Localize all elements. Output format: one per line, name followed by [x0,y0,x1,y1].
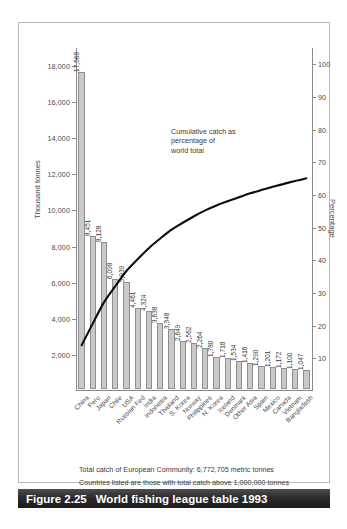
y-axis-right-line [312,48,313,391]
y-axis-right-tick [312,64,316,65]
y-axis-right-tick-label: 90 [318,93,326,102]
y-axis-right-tick-label: 80 [318,125,326,134]
y-axis-right-tick [312,97,316,98]
y-axis-left-tick-label: 12,000 [47,170,70,179]
y-axis-right-tick-label: 10 [318,354,326,363]
y-axis-right-tick [312,260,316,261]
cumulative-percentage-curve [76,48,312,391]
figure-frame: Thousand tonnes Percentage 2,0004,0006,0… [18,22,330,483]
curve-annotation-line: percentage of [171,136,236,145]
figure-caption-number: Figure 2.25 [26,493,87,505]
y-axis-right-tick [312,162,316,163]
y-axis-right-tick [312,326,316,327]
y-axis-right-title: Percentage [328,199,337,238]
curve-annotation-line: Cumulative catch as [171,127,236,136]
y-axis-right-tick-label: 20 [318,321,326,330]
curve-annotation-line: world total [171,146,236,155]
y-axis-right-tick [312,293,316,294]
y-axis-left-tick-label: 10,000 [47,206,70,215]
y-axis-right-tick-label: 60 [318,191,326,200]
y-axis-right-tick [312,358,316,359]
y-axis-right-tick-label: 100 [318,60,330,69]
y-axis-right-tick [312,195,316,196]
footnote-european-community: Total catch of European Community: 6,772… [79,465,274,474]
curve-annotation: Cumulative catch aspercentage ofworld to… [171,127,236,155]
y-axis-left-tick-label: 2,000 [52,350,71,359]
footnote-inclusion-criteria: Countries listed are those with total ca… [79,478,289,487]
y-axis-left-tick-label: 14,000 [47,134,70,143]
y-axis-right-tick-label: 30 [318,289,326,298]
y-axis-left-tick-label: 8,000 [52,242,71,251]
y-axis-right-tick [312,228,316,229]
y-axis-right-tick-label: 40 [318,256,326,265]
y-axis-left-tick-label: 6,000 [52,278,71,287]
y-axis-left-tick-label: 18,000 [47,62,70,71]
y-axis-left-title: Thousand tonnes [33,160,42,219]
y-axis-left-tick-label: 4,000 [52,314,71,323]
figure-caption-text: World fishing league table 1993 [96,493,268,505]
y-axis-left-tick-label: 16,000 [47,98,70,107]
y-axis-right-tick-label: 50 [318,223,326,232]
y-axis-right-tick-label: 70 [318,158,326,167]
figure-caption-bar: Figure 2.25 World fishing league table 1… [18,489,330,508]
y-axis-right-tick [312,130,316,131]
